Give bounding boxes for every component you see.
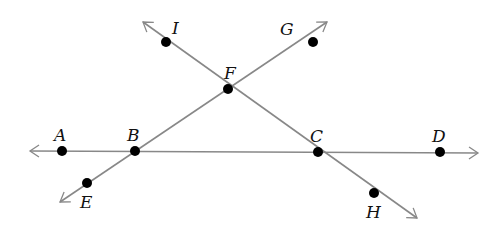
point-E	[82, 178, 92, 188]
point-label-A: A	[52, 125, 66, 145]
point-label-C: C	[310, 126, 323, 146]
point-label-G: G	[280, 19, 294, 39]
point-G	[308, 37, 318, 47]
point-D	[435, 147, 445, 157]
diagram-canvas: ABCDEFGIH	[0, 0, 504, 237]
point-label-I: I	[171, 18, 179, 38]
point-label-D: D	[431, 126, 446, 146]
line-EG	[60, 22, 327, 202]
point-I	[161, 37, 171, 47]
point-F	[223, 84, 233, 94]
point-A	[57, 146, 67, 156]
point-label-H: H	[365, 202, 382, 222]
point-B	[130, 146, 140, 156]
point-C	[313, 147, 323, 157]
line-AD	[30, 151, 478, 153]
point-label-B: B	[126, 125, 140, 145]
geometry-diagram: ABCDEFGIH	[0, 0, 504, 237]
point-label-E: E	[79, 192, 93, 212]
point-H	[369, 188, 379, 198]
point-label-F: F	[223, 63, 237, 83]
